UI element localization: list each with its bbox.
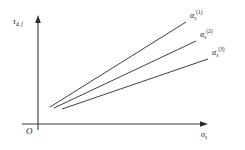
curve-label-1: αs(1) xyxy=(190,12,203,20)
curve-line-3 xyxy=(62,59,208,109)
y-axis-subscript: d, f xyxy=(16,21,23,27)
x-axis-arrowhead xyxy=(200,121,208,127)
x-axis-label: σs xyxy=(201,131,207,139)
curve-2-subscript: s xyxy=(204,34,206,40)
y-axis-arrowhead xyxy=(35,15,41,23)
plot-canvas xyxy=(0,0,245,150)
curve-line-1 xyxy=(50,22,186,107)
y-axis-label: τd, f xyxy=(13,18,23,26)
origin-label: O xyxy=(26,127,33,136)
curve-3-superscript: (3) xyxy=(218,46,224,52)
x-axis-subscript: s xyxy=(205,134,207,140)
curve-1-subscript: s xyxy=(194,15,196,21)
curve-1-superscript: (1) xyxy=(196,9,202,15)
curve-label-2: αs(2) xyxy=(200,31,213,39)
curve-label-3: αs(3) xyxy=(212,49,225,57)
figure-container: τd, f σs O αs(1) αs(2) αs(3) xyxy=(0,0,245,150)
curve-2-superscript: (2) xyxy=(206,28,212,34)
curve-3-subscript: s xyxy=(216,52,218,58)
curve-line-2 xyxy=(54,41,196,108)
